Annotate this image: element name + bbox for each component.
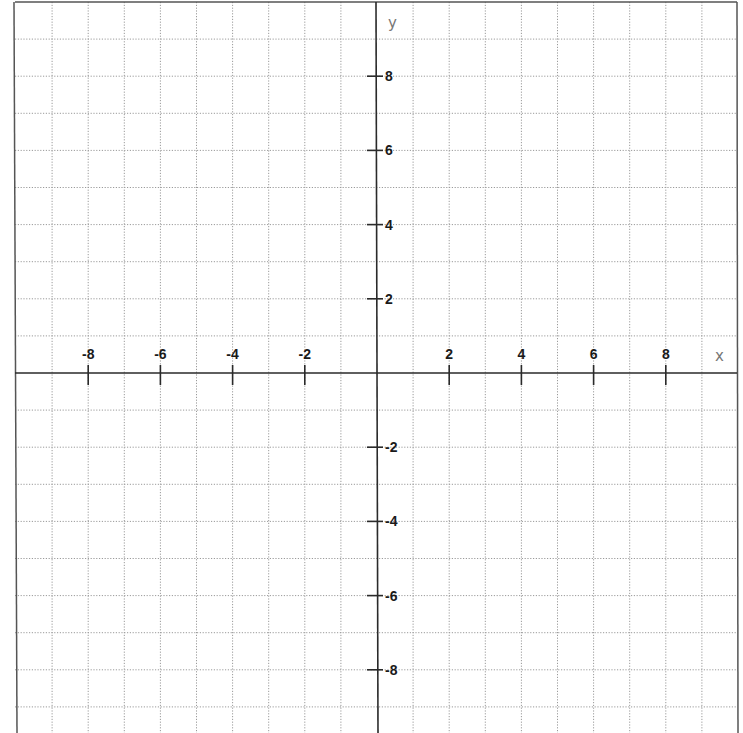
y-tick-label: 4 bbox=[385, 217, 393, 233]
x-tick-label: -6 bbox=[154, 346, 167, 362]
axes bbox=[15, 2, 737, 733]
x-tick-label: 6 bbox=[590, 346, 598, 362]
y-tick-label: -6 bbox=[385, 588, 398, 604]
y-tick-label: 6 bbox=[385, 142, 393, 158]
y-tick-label: -2 bbox=[385, 439, 398, 455]
coordinate-plane: -8-6-4-224688642-2-4-6-8 x y bbox=[0, 0, 743, 733]
y-axis-label: y bbox=[388, 14, 397, 32]
y-tick-label: 2 bbox=[385, 291, 393, 307]
x-tick-label: 2 bbox=[445, 346, 453, 362]
x-tick-label: 4 bbox=[518, 346, 526, 362]
x-tick-label: -4 bbox=[226, 346, 239, 362]
y-axis-line bbox=[376, 2, 378, 733]
y-tick-label: -8 bbox=[385, 662, 398, 678]
x-tick-label: -2 bbox=[299, 346, 312, 362]
x-axis-label: x bbox=[715, 347, 724, 365]
y-tick-label: -4 bbox=[385, 513, 398, 529]
x-tick-label: 8 bbox=[662, 346, 670, 362]
frame-right bbox=[737, 2, 738, 733]
x-tick-label: -8 bbox=[82, 346, 95, 362]
y-tick-label: 8 bbox=[385, 68, 393, 84]
frame-left bbox=[14, 2, 17, 733]
